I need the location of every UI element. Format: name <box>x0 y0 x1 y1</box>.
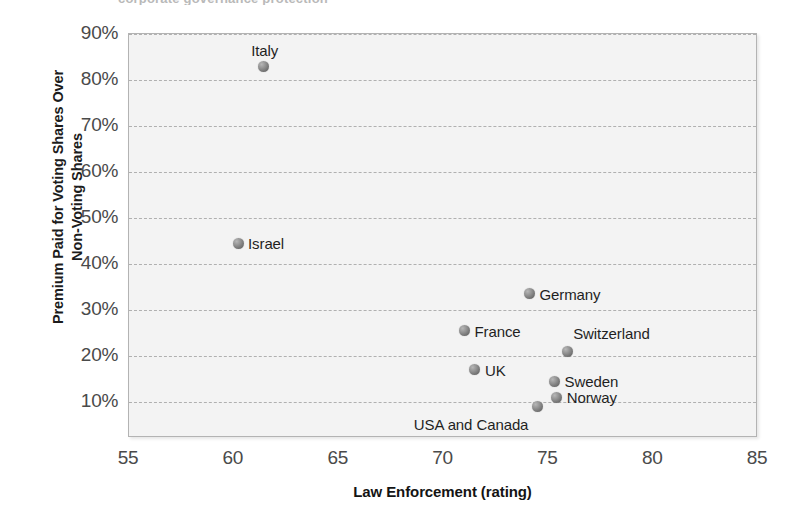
x-axis-title: Law Enforcement (rating) <box>128 483 757 500</box>
x-tick-label: 60 <box>203 447 263 469</box>
x-tick-label: 80 <box>622 447 682 469</box>
data-point-label: Germany <box>539 286 600 303</box>
data-point-label: Switzerland <box>573 325 649 342</box>
plot-area: ItalyIsraelGermanyFranceSwitzerlandUKSwe… <box>128 33 757 437</box>
gridline <box>129 80 756 81</box>
data-point-marker[interactable] <box>258 61 269 72</box>
y-axis-title: Premium Paid for Voting Shares Over Non-… <box>49 0 87 397</box>
gridline <box>129 264 756 265</box>
data-point-marker[interactable] <box>562 346 573 357</box>
data-point-label: Israel <box>248 235 284 252</box>
x-tick-label: 75 <box>517 447 577 469</box>
chart-title: corporate governance protection <box>118 0 638 5</box>
gridline <box>129 218 756 219</box>
scatter-chart-figure: corporate governance protection Premium … <box>0 0 789 517</box>
data-point-marker[interactable] <box>459 325 470 336</box>
data-point-marker[interactable] <box>524 288 535 299</box>
gridline <box>129 402 756 403</box>
gridline <box>129 34 756 35</box>
gridline <box>129 310 756 311</box>
data-point-marker[interactable] <box>532 401 543 412</box>
data-point-marker[interactable] <box>233 238 244 249</box>
data-point-label: France <box>474 323 520 340</box>
y-axis-title-line1: Premium Paid for Voting Shares Over <box>50 70 66 324</box>
data-point-label: USA and Canada <box>414 416 529 433</box>
gridline <box>129 126 756 127</box>
data-point-label: UK <box>485 362 506 379</box>
data-point-label: Sweden <box>565 373 619 390</box>
y-axis-title-line2: Non-Voting Shares <box>68 0 87 397</box>
gridline <box>129 356 756 357</box>
gridline <box>129 172 756 173</box>
data-point-label: Italy <box>251 42 278 59</box>
data-point-label: Norway <box>567 389 617 406</box>
data-point-marker[interactable] <box>469 364 480 375</box>
x-tick-label: 70 <box>413 447 473 469</box>
x-tick-label: 85 <box>727 447 787 469</box>
x-tick-label: 65 <box>308 447 368 469</box>
data-point-marker[interactable] <box>549 376 560 387</box>
x-tick-label: 55 <box>98 447 158 469</box>
